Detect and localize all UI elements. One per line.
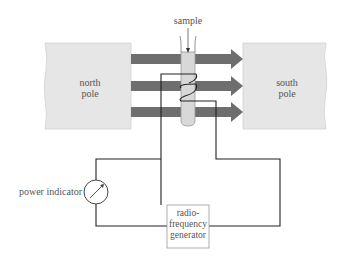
south-pole-label-line1: south [257, 77, 317, 88]
north-pole-label: north pole [60, 77, 120, 99]
rf-generator-label-line1: radio- [167, 208, 209, 219]
south-pole-label-line2: pole [257, 88, 317, 99]
sample-label: sample [168, 15, 208, 26]
north-pole-label-line2: pole [60, 88, 120, 99]
power-indicator-label: power indicator [10, 186, 82, 197]
rf-generator-label-line2: frequency [167, 219, 209, 230]
south-pole-label: south pole [257, 77, 317, 99]
power-indicator-meter-icon [84, 180, 108, 204]
north-pole-label-line1: north [60, 77, 120, 88]
rf-generator-label: radio- frequency generator [167, 208, 209, 241]
rf-generator-label-line3: generator [167, 230, 209, 241]
